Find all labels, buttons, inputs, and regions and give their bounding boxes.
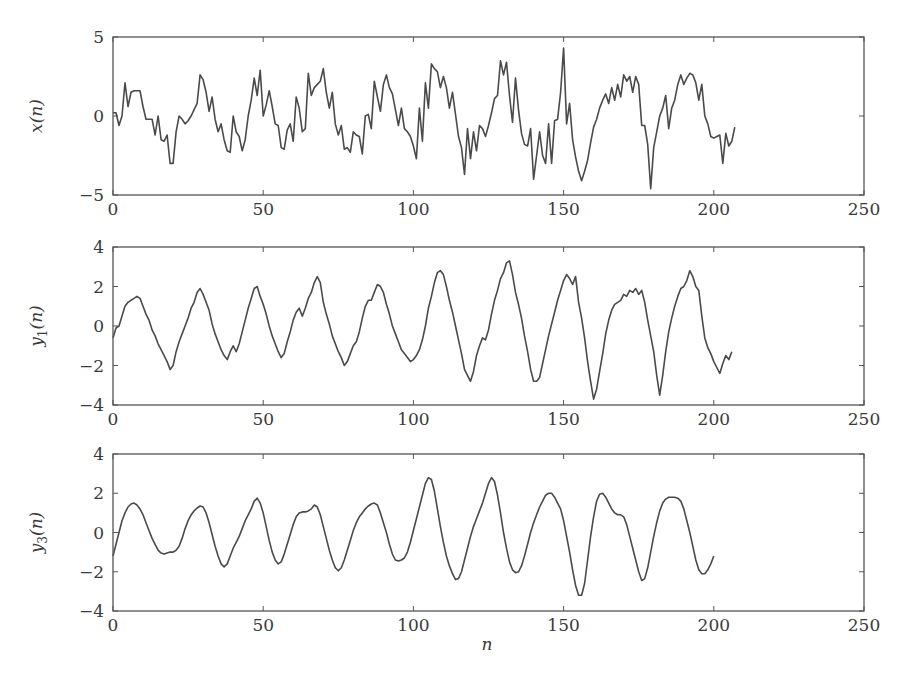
series-line-y1-n: [113, 261, 732, 399]
chart-canvas: −505 050100150200250 x(n) −4−2024 050100…: [0, 0, 922, 681]
x-tick-label: 250: [848, 615, 880, 635]
y-axis-label: y1(n): [26, 305, 50, 347]
axis-ticks: [113, 37, 864, 195]
axes-box: [113, 454, 864, 611]
x-tick-labels: 050100150200250: [108, 615, 881, 635]
subplot-x-n: −505 050100150200250 x(n): [26, 27, 880, 219]
subplot-y1-n: −4−2024 050100150200250 y1(n): [26, 237, 880, 429]
y-tick-label: 0: [93, 316, 104, 336]
y-tick-labels: −505: [79, 27, 104, 205]
x-tick-label: 0: [108, 409, 119, 429]
y-tick-label: 4: [93, 444, 104, 464]
y-axis-label: y3(n): [26, 512, 50, 554]
x-tick-label: 150: [547, 199, 579, 219]
x-tick-label: 100: [397, 199, 429, 219]
x-tick-label: 50: [252, 199, 274, 219]
x-tick-label: 150: [547, 409, 579, 429]
axis-ticks: [113, 454, 864, 611]
x-tick-label: 250: [848, 409, 880, 429]
x-tick-labels: 050100150200250: [108, 409, 881, 429]
x-tick-label: 50: [252, 615, 274, 635]
x-tick-label: 0: [108, 199, 119, 219]
subplot-y3-n: −4−2024 050100150200250 y3(n): [26, 444, 880, 635]
x-tick-label: 250: [848, 199, 880, 219]
x-tick-label: 100: [397, 615, 429, 635]
x-tick-label: 100: [397, 409, 429, 429]
y-tick-label: −4: [79, 601, 104, 621]
axes-box: [113, 37, 864, 195]
x-tick-label: 200: [698, 615, 730, 635]
y-axis-label: x(n): [26, 99, 46, 133]
x-tick-label: 50: [252, 409, 274, 429]
y-tick-label: −2: [79, 356, 104, 376]
y-tick-label: 0: [93, 523, 104, 543]
y-tick-label: 2: [93, 483, 104, 503]
y-tick-label: −5: [79, 185, 104, 205]
y-tick-label: 2: [93, 277, 104, 297]
y-tick-label: 5: [93, 27, 104, 47]
x-tick-labels: 050100150200250: [108, 199, 881, 219]
y-tick-label: 4: [93, 237, 104, 257]
x-axis-label: n: [482, 634, 493, 654]
series-line-x-n: [113, 48, 735, 189]
y-tick-labels: −4−2024: [79, 237, 104, 415]
series-line-y3-n: [113, 478, 714, 596]
figure: −505 050100150200250 x(n) −4−2024 050100…: [0, 0, 922, 681]
x-tick-label: 0: [108, 615, 119, 635]
y-tick-label: −2: [79, 562, 104, 582]
y-tick-label: 0: [93, 106, 104, 126]
y-tick-labels: −4−2024: [79, 444, 104, 621]
x-tick-label: 150: [547, 615, 579, 635]
y-tick-label: −4: [79, 395, 104, 415]
x-tick-label: 200: [698, 409, 730, 429]
x-tick-label: 200: [698, 199, 730, 219]
